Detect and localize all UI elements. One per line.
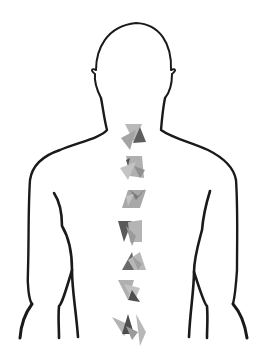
crystal-cluster-2	[120, 156, 145, 180]
crystal-cluster-6	[118, 280, 140, 302]
crystal-cluster-5	[122, 252, 146, 270]
right-shoulder-outline	[161, 98, 237, 304]
body-outline-drawing	[0, 0, 265, 360]
right-waist-outline	[194, 272, 207, 338]
left-shoulder-outline	[28, 98, 107, 304]
crystal-cluster-4	[118, 220, 142, 246]
crystal-cluster-7	[112, 314, 146, 346]
head-outline	[92, 23, 175, 98]
crystal-cluster-3	[122, 188, 146, 208]
right-arm-lower-outline	[233, 304, 247, 338]
left-waist-outline	[59, 270, 72, 338]
torso-illustration	[0, 0, 265, 360]
left-arm-lower-outline	[20, 304, 32, 338]
crystal-cluster-1	[121, 124, 146, 150]
